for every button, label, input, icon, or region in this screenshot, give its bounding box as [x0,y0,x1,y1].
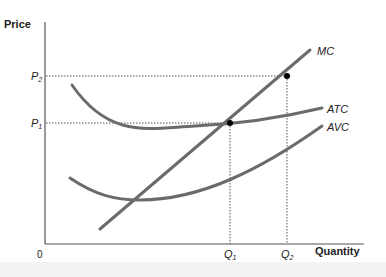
p2-tick-label: P2 [31,70,42,83]
avc-curve [70,126,322,200]
origin-label: 0 [37,249,43,260]
q1-tick-label: Q1 [224,248,237,261]
point-q1-p1 [227,120,233,126]
y-axis-label: Price [4,18,31,30]
cost-curves-chart: Price Quantity 0 MC ATC AVC P2 P1 Q1 Q2 [0,0,386,277]
mc-curve [100,50,310,229]
atc-label: ATC [326,103,348,115]
p1-tick-label: P1 [31,117,42,130]
mc-label: MC [317,45,334,57]
avc-label: AVC [326,121,349,133]
point-q2-p2 [284,73,290,79]
atc-curve [72,85,322,128]
q2-tick-label: Q2 [281,248,294,261]
x-axis-label: Quantity [315,245,360,257]
